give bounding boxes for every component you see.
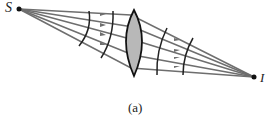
- figure-caption: (a): [128, 100, 142, 116]
- image-label: I: [260, 70, 264, 86]
- source-point: [17, 7, 22, 12]
- source-label: S: [5, 0, 12, 16]
- image-point: [252, 75, 257, 80]
